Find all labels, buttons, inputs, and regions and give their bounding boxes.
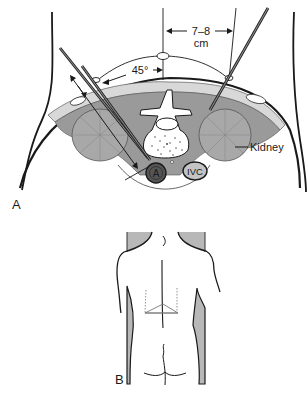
right-kidney — [199, 109, 251, 161]
panel-b: B — [115, 232, 220, 387]
angle-label: 45° — [132, 64, 149, 76]
ivc: IVC — [183, 162, 207, 180]
skin-marker-midline — [157, 53, 169, 60]
aorta-label: A — [153, 168, 160, 179]
body-outline-right — [293, 12, 306, 192]
panel-a-label: A — [12, 197, 21, 212]
kidney-label: Kidney — [250, 141, 284, 153]
gluteal-cleft — [163, 344, 165, 385]
left-shoulder-shade — [127, 232, 152, 252]
panel-b-label: B — [115, 372, 124, 387]
small-vessel — [171, 161, 174, 164]
left-arm-shade — [127, 286, 133, 384]
anatomy-diagram: A IVC 7–8 cm 45° — [0, 0, 308, 393]
ivc-label: IVC — [187, 166, 203, 177]
body-outline-left — [22, 12, 53, 190]
spine-line — [162, 260, 163, 328]
needle-entry-markings — [145, 288, 178, 313]
right-arm-shade — [193, 288, 205, 384]
distance-label: 7–8 — [192, 25, 210, 37]
aorta: A — [146, 163, 166, 183]
neck-mark — [163, 236, 165, 246]
panel-a: A IVC 7–8 cm 45° — [12, 8, 306, 212]
distance-unit-label: cm — [194, 37, 209, 49]
